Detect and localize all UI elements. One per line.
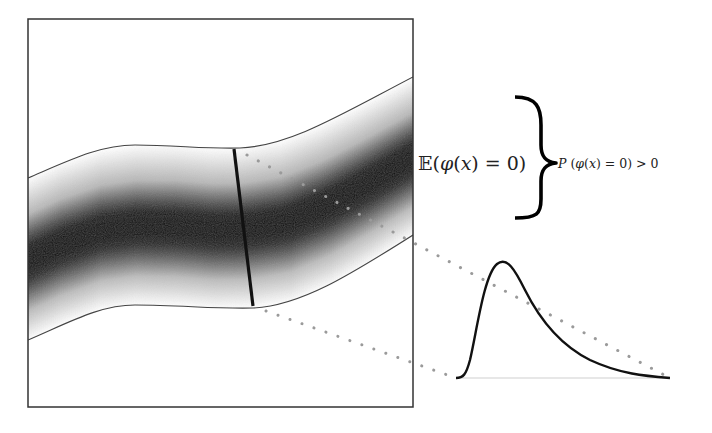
diagram-canvas: 𝔼(φ(x) = 0) P (φ(x) = 0) > 0 [0,0,712,433]
projection-line-lower [266,311,456,378]
probability-label: P (φ(x) = 0) > 0 [557,156,659,171]
uncertainty-band [28,78,415,340]
expectation-label: 𝔼(φ(x) = 0) [418,152,526,174]
distribution-curve [456,262,670,378]
